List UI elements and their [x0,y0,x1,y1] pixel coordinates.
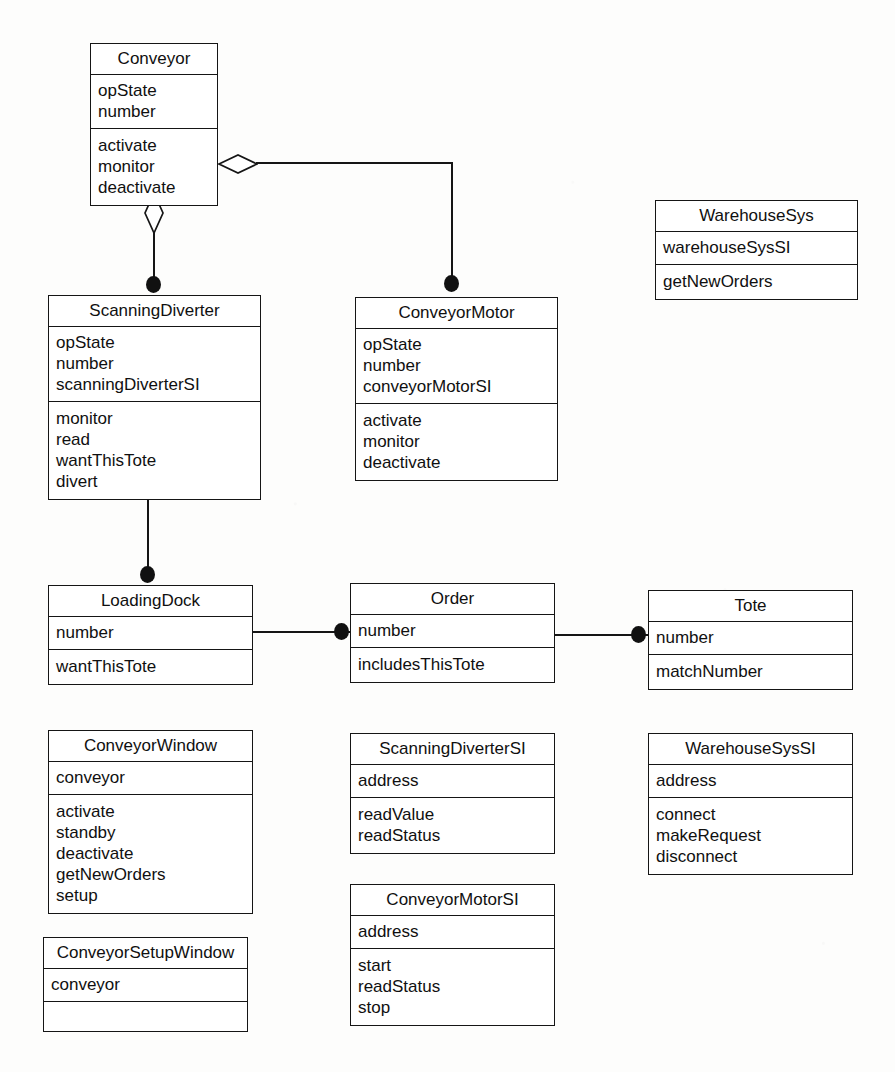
connector-conveyor-conveyormotor-vertical [451,162,453,280]
operation: monitor [98,156,210,177]
attribute: address [358,921,547,942]
attribute: number [358,620,547,641]
operations-compartment-scanningdiverter: monitor read wantThisTote divert [49,401,260,499]
operation: read [56,429,253,450]
class-name-scanningdiverter: ScanningDiverter [49,296,260,326]
class-box-loadingdock[interactable]: LoadingDock number wantThisTote [48,585,253,685]
operations-compartment-tote: matchNumber [649,654,852,689]
class-box-scanningdivertersi[interactable]: ScanningDiverterSI address readValue rea… [350,733,555,854]
attribute: number [656,627,845,648]
class-box-tote[interactable]: Tote number matchNumber [648,590,853,690]
operation: readStatus [358,976,547,997]
attribute: warehouseSysSI [663,237,850,258]
attributes-compartment-scanningdivertersi: address [351,764,554,797]
operations-compartment-scanningdivertersi: readValue readStatus [351,797,554,853]
operation: makeRequest [656,825,845,846]
attributes-compartment-conveyor: opState number [91,74,217,128]
operation: setup [56,885,245,906]
class-box-conveyorwindow[interactable]: ConveyorWindow conveyor activate standby… [48,730,253,914]
operation: getNewOrders [56,864,245,885]
multiplicity-dot-scanningdiverter [146,276,161,293]
operation: stop [358,997,547,1018]
attributes-compartment-conveyormotorsi: address [351,915,554,948]
multiplicity-dot-loadingdock [140,566,155,583]
attributes-compartment-warehousesys: warehouseSysSI [656,231,857,264]
operations-compartment-warehousesys: getNewOrders [656,264,857,299]
operation: deactivate [98,177,210,198]
uml-diagram-canvas: Conveyor opState number activate monitor… [0,0,895,1072]
attribute: number [56,622,245,643]
attribute: address [656,770,845,791]
attributes-compartment-warehousesyssi: address [649,764,852,797]
aggregation-diamond-conveyor-conveyormotor [218,153,258,179]
attributes-compartment-conveyorsetupwindow: conveyor [44,968,247,1001]
class-box-conveyorsetupwindow[interactable]: ConveyorSetupWindow conveyor [43,937,248,1032]
class-box-scanningdiverter[interactable]: ScanningDiverter opState number scanning… [48,295,261,500]
attribute: conveyor [51,974,240,995]
operations-compartment-conveyorwindow: activate standby deactivate getNewOrders… [49,794,252,913]
class-name-scanningdivertersi: ScanningDiverterSI [351,734,554,764]
operations-compartment-order: includesThisTote [351,647,554,682]
operation: wantThisTote [56,656,245,677]
connector-conveyor-scanningdiverter-vertical [153,232,155,281]
operation: monitor [56,408,253,429]
class-name-warehousesys: WarehouseSys [656,201,857,231]
class-name-warehousesyssi: WarehouseSysSI [649,734,852,764]
attributes-compartment-tote: number [649,621,852,654]
multiplicity-dot-conveyormotor [444,275,459,292]
class-box-conveyormotorsi[interactable]: ConveyorMotorSI address start readStatus… [350,884,555,1026]
class-name-conveyorwindow: ConveyorWindow [49,731,252,761]
class-box-conveyormotor[interactable]: ConveyorMotor opState number conveyorMot… [355,297,558,481]
class-box-warehousesyssi[interactable]: WarehouseSysSI address connect makeReque… [648,733,853,875]
attribute: address [358,770,547,791]
multiplicity-dot-tote [631,626,646,643]
class-name-tote: Tote [649,591,852,621]
attributes-compartment-conveyorwindow: conveyor [49,761,252,794]
operation: activate [363,410,550,431]
operation: readStatus [358,825,547,846]
operation: disconnect [656,846,845,867]
operation: includesThisTote [358,654,547,675]
operation: monitor [363,431,550,452]
attributes-compartment-scanningdiverter: opState number scanningDiverterSI [49,326,260,401]
operations-compartment-conveyor: activate monitor deactivate [91,128,217,205]
class-name-order: Order [351,584,554,614]
attribute: opState [56,332,253,353]
operation: connect [656,804,845,825]
class-name-conveyormotor: ConveyorMotor [356,298,557,328]
attribute: number [56,353,253,374]
attribute: number [98,101,210,122]
class-box-conveyor[interactable]: Conveyor opState number activate monitor… [90,43,218,206]
operation: getNewOrders [663,271,850,292]
class-name-conveyorsetupwindow: ConveyorSetupWindow [44,938,247,968]
attribute: opState [98,80,210,101]
operation: deactivate [56,843,245,864]
class-box-warehousesys[interactable]: WarehouseSys warehouseSysSI getNewOrders [655,200,858,300]
attribute: conveyor [56,767,245,788]
class-name-conveyormotorsi: ConveyorMotorSI [351,885,554,915]
attributes-compartment-order: number [351,614,554,647]
class-box-order[interactable]: Order number includesThisTote [350,583,555,683]
attribute: scanningDiverterSI [56,374,253,395]
attributes-compartment-loadingdock: number [49,616,252,649]
class-name-loadingdock: LoadingDock [49,586,252,616]
attribute: opState [363,334,550,355]
connector-conveyor-conveyormotor-horizontal [256,162,452,164]
operation: standby [56,822,245,843]
operation: divert [56,471,253,492]
operation: deactivate [363,452,550,473]
attributes-compartment-conveyormotor: opState number conveyorMotorSI [356,328,557,403]
operation: wantThisTote [56,450,253,471]
operations-compartment-loadingdock: wantThisTote [49,649,252,684]
attribute: number [363,355,550,376]
multiplicity-dot-order [334,623,349,640]
attribute: conveyorMotorSI [363,376,550,397]
operation: activate [98,135,210,156]
operations-compartment-conveyorsetupwindow [44,1001,247,1031]
operations-compartment-warehousesyssi: connect makeRequest disconnect [649,797,852,874]
operations-compartment-conveyormotor: activate monitor deactivate [356,403,557,480]
operation: activate [56,801,245,822]
operation: matchNumber [656,661,845,682]
operations-compartment-conveyormotorsi: start readStatus stop [351,948,554,1025]
operation: readValue [358,804,547,825]
